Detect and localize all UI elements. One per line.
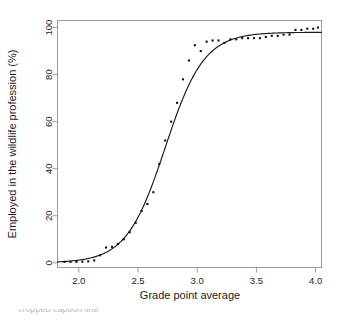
x-axis-title: Grade point average bbox=[140, 289, 240, 301]
data-point bbox=[247, 37, 249, 39]
data-point bbox=[146, 203, 148, 205]
data-point bbox=[141, 210, 143, 212]
x-tick-label: 2.5 bbox=[131, 275, 144, 286]
data-point bbox=[135, 222, 137, 224]
y-tick-label: 60 bbox=[43, 116, 54, 127]
data-point bbox=[235, 38, 237, 40]
data-point bbox=[259, 37, 261, 39]
data-point bbox=[81, 261, 83, 263]
x-tick-label: 3.0 bbox=[191, 275, 204, 286]
data-point bbox=[75, 261, 77, 263]
data-point bbox=[294, 29, 296, 31]
data-point bbox=[212, 39, 214, 41]
data-point bbox=[117, 243, 119, 245]
data-point bbox=[87, 260, 89, 262]
y-tick-label: 80 bbox=[43, 69, 54, 80]
figure-container: 2.02.53.03.54.0 020406080100 Grade point… bbox=[0, 0, 338, 318]
data-point bbox=[277, 35, 279, 37]
data-point bbox=[217, 39, 219, 41]
data-point bbox=[123, 238, 125, 240]
y-tick-label: 40 bbox=[43, 163, 54, 174]
data-point bbox=[288, 34, 290, 36]
x-tick-label: 3.5 bbox=[250, 275, 263, 286]
data-point bbox=[176, 102, 178, 104]
data-point bbox=[312, 28, 314, 30]
data-point bbox=[152, 191, 154, 193]
data-point bbox=[194, 44, 196, 46]
data-point bbox=[182, 78, 184, 80]
data-point bbox=[64, 261, 66, 263]
data-point bbox=[223, 42, 225, 44]
data-point bbox=[206, 41, 208, 43]
data-point bbox=[253, 37, 255, 39]
data-point bbox=[99, 254, 101, 256]
data-point bbox=[283, 34, 285, 36]
data-point bbox=[158, 163, 160, 165]
x-tick-label: 2.0 bbox=[72, 275, 85, 286]
data-point bbox=[271, 35, 273, 37]
y-tick-label: 20 bbox=[43, 210, 54, 221]
y-tick-label: 100 bbox=[43, 20, 54, 36]
data-point bbox=[317, 27, 319, 29]
data-point bbox=[69, 261, 71, 263]
data-point bbox=[306, 28, 308, 30]
data-point bbox=[188, 59, 190, 61]
data-point bbox=[129, 231, 131, 233]
data-point bbox=[105, 246, 107, 248]
data-point bbox=[200, 50, 202, 52]
data-point bbox=[229, 38, 231, 40]
data-point bbox=[93, 259, 95, 261]
data-point bbox=[241, 37, 243, 39]
data-point bbox=[300, 29, 302, 31]
chart-background bbox=[0, 0, 338, 318]
x-tick-label: 4.0 bbox=[309, 275, 322, 286]
logistic-regression-chart: 2.02.53.03.54.0 020406080100 Grade point… bbox=[0, 0, 338, 318]
data-point bbox=[265, 36, 267, 38]
y-axis-title: Employed in the wildlife profession (%) bbox=[6, 50, 18, 239]
data-point bbox=[164, 139, 166, 141]
y-tick-label: 0 bbox=[43, 260, 54, 265]
data-point bbox=[111, 246, 113, 248]
data-point bbox=[170, 121, 172, 123]
